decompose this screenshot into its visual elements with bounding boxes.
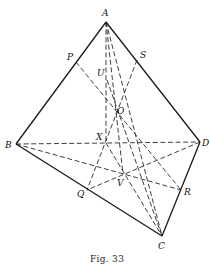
label-D: D [201,138,209,148]
label-U: U [97,68,105,78]
label-P: P [66,52,74,62]
dashed-lines [16,22,200,236]
tetrahedron-figure: ABCDPSQRUOXV Fig. 33 [0,0,210,270]
edge-BD [16,142,200,144]
label-R: R [183,187,191,197]
edge-AD [106,22,200,142]
edge-BR [16,144,181,190]
solid-edges [16,22,200,236]
figure-caption: Fig. 33 [90,254,124,264]
label-Q: Q [77,189,85,199]
label-S: S [140,50,146,60]
edge-AC [106,22,162,236]
label-X: X [95,132,103,142]
label-B: B [4,140,12,150]
point-labels: ABCDPSQRUOXV [4,8,209,251]
label-O: O [117,106,125,116]
label-C: C [158,241,165,251]
edge-AB [16,22,106,144]
label-V: V [117,178,125,188]
edge-AV [106,22,123,174]
edge-BC [16,144,162,236]
label-A: A [101,8,109,18]
